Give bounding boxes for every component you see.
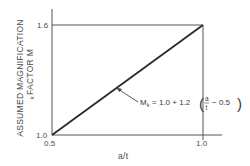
equation-lhs-sub: k (147, 102, 150, 108)
x-tick-1.0: 1.0 (196, 139, 208, 148)
y-axis-label-subscript: k (29, 96, 35, 99)
x-axis-label: a/t (118, 151, 129, 161)
y-tick-1.6: 1.6 (37, 21, 49, 30)
paren-close: ) (237, 95, 242, 112)
annotation-leader (118, 89, 138, 102)
equation-rhs-suffix: − 0.5 (212, 98, 231, 107)
paren-open: ( (199, 95, 204, 112)
equation-lhs: M (140, 98, 147, 107)
chart: 1.6 1.0 0.5 1.0 a/t ASSUMED MAGNIFICATIO… (0, 0, 250, 166)
y-axis-label-line2: FACTOR M (25, 49, 35, 95)
frac-den: t (206, 104, 208, 111)
y-axis-label-line1: ASSUMED MAGNIFICATION (15, 19, 25, 137)
equation-rhs-prefix: = 1.0 + 1.2 (152, 98, 191, 107)
x-tick-0.5: 0.5 (44, 139, 56, 148)
data-line-mk (52, 25, 203, 135)
frac-num: a (205, 95, 209, 102)
